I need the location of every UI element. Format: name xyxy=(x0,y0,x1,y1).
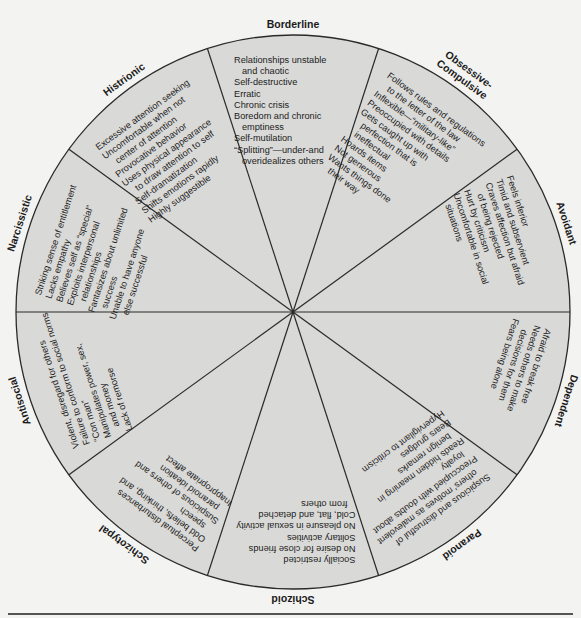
trait-item: Erratic xyxy=(234,89,261,99)
segment-label-schizoid: Schizoid xyxy=(271,594,314,606)
trait-item: Self-mutilation xyxy=(234,133,292,143)
segment-label-text: Borderline xyxy=(267,18,320,30)
trait-item: overidealizes others xyxy=(242,156,324,166)
segment-label-text: Schizoid xyxy=(271,594,314,606)
trait-item: No pleasure in sexual activity xyxy=(236,521,355,531)
trait-item: Solitary activities xyxy=(287,533,356,543)
trait-item: “Splitting”—under-and xyxy=(234,145,324,155)
trait-item: Socially restricted xyxy=(284,555,356,565)
trait-item: Chronic crisis xyxy=(234,100,290,110)
trait-item: from others xyxy=(301,499,348,509)
bottom-rule-divider xyxy=(8,613,573,615)
trait-item: and chaotic xyxy=(242,66,289,76)
trait-item: No desire for close friends xyxy=(248,544,355,554)
trait-item: emptiness xyxy=(242,122,284,132)
trait-item: Boredom and chronic xyxy=(234,111,322,121)
trait-item: Cold, flat, and detached xyxy=(258,510,355,520)
trait-item: Relationships unstable xyxy=(234,55,326,65)
trait-item: Self-destructive xyxy=(234,77,297,87)
segment-label-borderline: Borderline xyxy=(267,18,320,30)
personality-disorders-wheel-diagram: BorderlineObsessive-CompulsiveAvoidantDe… xyxy=(0,0,581,618)
wheel-graphic: BorderlineObsessive-CompulsiveAvoidantDe… xyxy=(0,0,581,618)
